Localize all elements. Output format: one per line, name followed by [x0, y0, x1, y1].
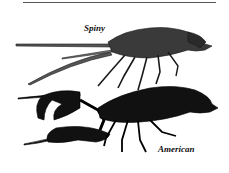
american-lobster	[18, 86, 218, 152]
american-label: American	[158, 144, 195, 154]
spiny-label: Spiny	[84, 23, 105, 33]
spiny-lobster	[16, 28, 212, 91]
